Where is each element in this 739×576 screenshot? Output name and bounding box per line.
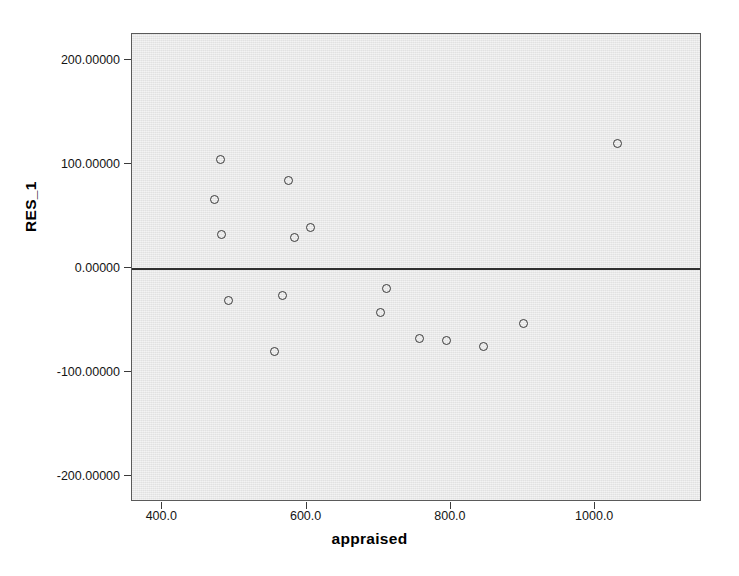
data-point: [519, 319, 528, 328]
y-axis-tick-label: -100.00000: [57, 365, 120, 379]
data-point: [613, 139, 622, 148]
data-point: [442, 336, 451, 345]
x-axis-tick: [161, 502, 162, 509]
data-point: [210, 195, 219, 204]
plot-area: [131, 33, 701, 501]
data-point: [306, 223, 315, 232]
data-point: [278, 291, 287, 300]
data-point: [376, 308, 385, 317]
data-point: [224, 296, 233, 305]
data-point: [290, 233, 299, 242]
y-axis-tick: [124, 267, 131, 268]
data-point: [284, 176, 293, 185]
data-point: [479, 342, 488, 351]
y-axis-tick-label: 200.00000: [61, 53, 120, 67]
data-point: [216, 155, 225, 164]
y-axis-tick-label: 0.00000: [75, 261, 120, 275]
y-axis-tick: [124, 371, 131, 372]
x-axis-title: appraised: [0, 530, 739, 548]
x-axis-tick-label: 400.0: [146, 509, 177, 523]
x-axis-tick-label: 800.0: [434, 509, 465, 523]
data-point: [382, 284, 391, 293]
y-axis-tick-label: -200.00000: [57, 469, 120, 483]
y-axis-title: RES_1: [22, 181, 40, 232]
data-point: [217, 230, 226, 239]
y-axis-tick: [124, 59, 131, 60]
y-axis-tick-label: 100.00000: [61, 157, 120, 171]
x-axis-tick: [594, 502, 595, 509]
data-point: [415, 334, 424, 343]
y-axis-tick: [124, 475, 131, 476]
x-axis-tick: [450, 502, 451, 509]
x-axis-tick-label: 600.0: [290, 509, 321, 523]
data-point: [270, 347, 279, 356]
x-axis-tick: [306, 502, 307, 509]
scatter-plot-figure: RES_1 200.00000100.000000.00000-100.0000…: [0, 0, 739, 576]
y-axis-tick: [124, 163, 131, 164]
x-axis-tick-label: 1000.0: [575, 509, 613, 523]
zero-reference-line: [132, 268, 700, 270]
